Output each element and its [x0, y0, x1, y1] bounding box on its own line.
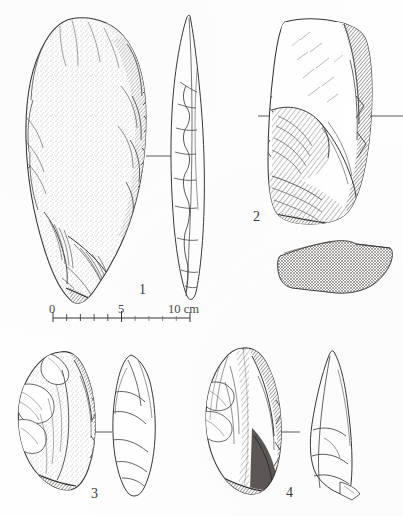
figure-1-plan-body	[21, 10, 151, 312]
scale-label-5: 5	[118, 303, 124, 316]
figure-3-profile-view	[113, 355, 155, 496]
figure-number-2: 2	[253, 210, 261, 224]
figure-number-4: 4	[286, 486, 294, 500]
figure-2-plan-view	[258, 16, 403, 228]
figure-3-plan-view	[16, 348, 112, 492]
figure-4-profile-view	[310, 351, 360, 500]
scale-label-0: 0	[49, 303, 55, 316]
scale-label-10-cm: 10 cm	[168, 303, 199, 316]
figure-plate: 1 2 3 4 0 5 10 cm	[0, 0, 403, 516]
figure-1-plan-view	[0, 0, 403, 516]
figure-number-3: 3	[91, 487, 99, 501]
figure-number-1: 1	[139, 283, 147, 297]
figure-2-section-view	[278, 241, 393, 294]
figure-4-plan-view	[203, 344, 300, 498]
figure-1-profile-view	[171, 15, 204, 299]
